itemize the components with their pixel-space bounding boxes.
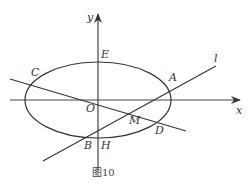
label-x-axis: x xyxy=(236,104,243,117)
label-m: M xyxy=(128,114,141,127)
label-e: E xyxy=(100,48,109,61)
label-c: C xyxy=(31,66,40,79)
diagram-canvas: y x E C A l O M D B H 图10 xyxy=(0,0,249,189)
label-o: O xyxy=(86,102,95,115)
label-l: l xyxy=(214,52,218,65)
label-h: H xyxy=(100,139,111,152)
label-d: D xyxy=(154,124,164,137)
label-a: A xyxy=(168,71,177,84)
figure-caption: 图10 xyxy=(92,167,115,178)
figure-10-diagram: y x E C A l O M D B H 图10 xyxy=(0,0,249,189)
label-b: B xyxy=(83,139,92,152)
label-y-axis: y xyxy=(86,11,94,24)
